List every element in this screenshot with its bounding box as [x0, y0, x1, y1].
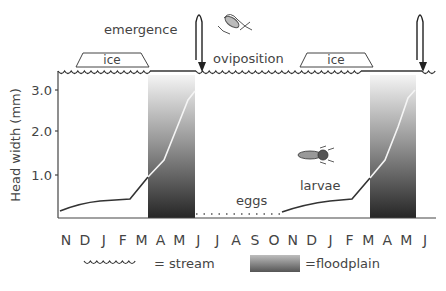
ice-block-2: ice [300, 53, 373, 67]
month-label: O [268, 232, 279, 248]
month-label: M [362, 232, 374, 248]
month-label: J [214, 232, 219, 248]
emergence-label: emergence [104, 22, 177, 37]
legend: = stream =floodplain [84, 255, 380, 272]
larvae-label: larvae [300, 178, 341, 193]
month-label: M [136, 232, 148, 248]
month-label: A [383, 232, 393, 248]
month-label: N [61, 232, 71, 248]
svg-text:1.0: 1.0 [31, 168, 52, 183]
svg-text:=floodplain: =floodplain [305, 256, 380, 271]
month-label: M [400, 232, 412, 248]
month-label: A [231, 232, 241, 248]
ice-block-1: ice [76, 53, 149, 67]
y-tick-labels: 3.0 2.0 1.0 [31, 83, 52, 183]
month-label: D [306, 232, 317, 248]
stream-line [58, 71, 435, 74]
floodplain-band-1 [148, 75, 195, 218]
month-label: M [173, 232, 185, 248]
month-label: J [328, 232, 333, 248]
larva-icon [298, 146, 334, 164]
month-labels: NDJFMAMJJASONDJFMAMJ [61, 232, 427, 248]
month-label: F [345, 232, 353, 248]
month-label: A [156, 232, 166, 248]
oviposition-label: oviposition [213, 51, 284, 66]
stream-legend-symbol [84, 261, 135, 264]
month-label: J [422, 232, 427, 248]
emergence-arrow-icon [196, 15, 206, 72]
floodplain-legend-symbol [250, 255, 300, 272]
month-label: N [288, 232, 298, 248]
svg-text:ice: ice [103, 53, 120, 67]
y-axis-label: Head width (mm) [8, 88, 23, 202]
month-label: J [101, 232, 106, 248]
eggs-label: eggs [236, 193, 268, 208]
life-cycle-diagram: ice ice emergence oviposition eggs larva… [0, 0, 446, 291]
svg-text:2.0: 2.0 [31, 124, 52, 139]
month-label: S [251, 232, 260, 248]
month-label: F [119, 232, 127, 248]
return-arrow-icon [417, 15, 427, 72]
svg-text:= stream: = stream [154, 256, 215, 271]
month-label: J [195, 232, 200, 248]
svg-text:3.0: 3.0 [31, 83, 52, 98]
month-label: D [80, 232, 91, 248]
adult-mayfly-icon [218, 14, 252, 34]
svg-text:ice: ice [327, 53, 344, 67]
